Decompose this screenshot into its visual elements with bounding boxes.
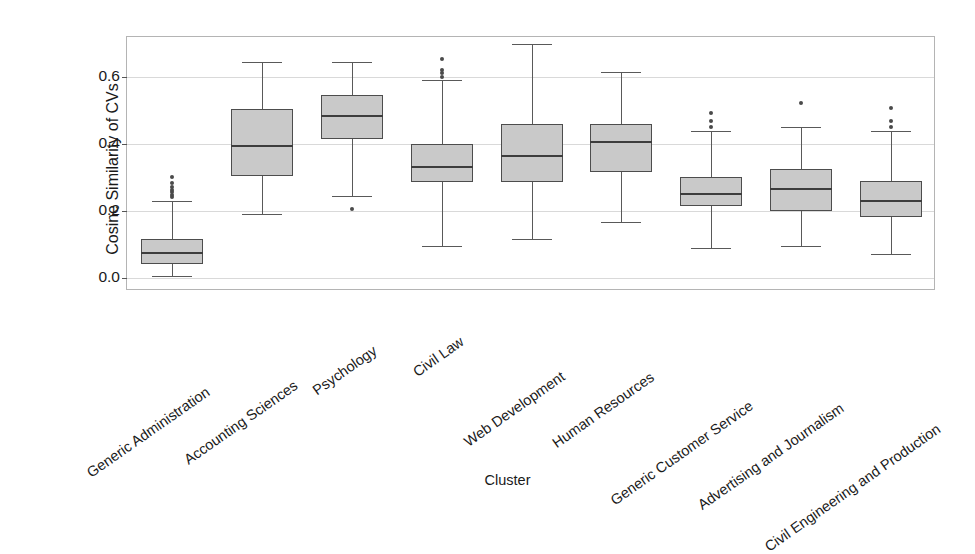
y-axis-tick-label: 0.0 — [80, 268, 120, 286]
plot-area — [126, 36, 935, 290]
x-axis-title: Cluster — [0, 472, 975, 488]
y-axis-tick-label: 0.6 — [80, 67, 120, 85]
outlier-point — [889, 125, 893, 129]
y-axis-tick-label: 0.2 — [80, 201, 120, 219]
whisker-upper — [891, 131, 892, 181]
cap-upper — [871, 131, 911, 132]
outlier-point — [889, 106, 893, 110]
y-axis-tick-label: 0.4 — [80, 134, 120, 152]
outlier-point — [889, 119, 893, 123]
x-axis-tick-label: Psychology — [309, 343, 379, 399]
median-line — [860, 200, 922, 202]
x-axis-tick-label: Civil Law — [410, 333, 467, 379]
box-plot-group[interactable] — [127, 37, 934, 289]
whisker-lower — [891, 217, 892, 254]
cap-lower — [871, 254, 911, 255]
